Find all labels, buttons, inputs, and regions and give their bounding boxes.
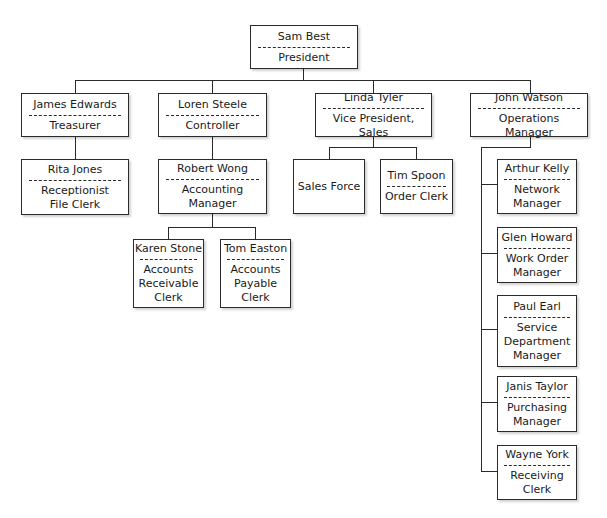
dashed-divider [478, 108, 579, 109]
node-name: Tom Easton [224, 242, 287, 256]
dashed-divider [387, 186, 447, 187]
node-name: Rita Jones [48, 163, 103, 177]
connector-line [481, 184, 497, 185]
node-network-manager: Arthur Kelly Network Manager [497, 159, 577, 214]
node-accounting-manager: Robert Wong Accounting Manager [158, 159, 267, 214]
dashed-divider [258, 47, 350, 48]
node-name: Linda Tyler [344, 91, 403, 105]
dashed-divider [504, 465, 570, 466]
connector-line [481, 253, 497, 254]
node-name: Sales Force [298, 180, 361, 194]
connector-line [255, 227, 256, 239]
node-name: Glen Howard [502, 231, 573, 245]
node-name: John Watson [495, 91, 563, 105]
dashed-divider [504, 179, 570, 180]
node-title: Receptionist File Clerk [41, 184, 109, 212]
node-title: Order Clerk [385, 190, 448, 204]
node-service-manager: Paul Earl Service Department Manager [497, 295, 577, 367]
connector-line [329, 147, 417, 148]
connector-line [75, 80, 76, 93]
node-title: Accounts Receivable Clerk [139, 263, 199, 305]
node-president: Sam Best President [250, 25, 358, 69]
connector-line [481, 471, 497, 472]
connector-line [168, 227, 256, 228]
dashed-divider [140, 259, 198, 260]
connector-line [481, 147, 482, 472]
node-name: Arthur Kelly [505, 162, 569, 176]
node-name: Janis Taylor [506, 380, 568, 394]
node-title: Controller [185, 119, 239, 133]
node-name: Tim Spoon [387, 169, 445, 183]
node-purchasing-manager: Janis Taylor Purchasing Manager [497, 376, 577, 432]
node-vp-sales: Linda Tyler Vice President, Sales [315, 93, 432, 137]
node-work-order-manager: Glen Howard Work Order Manager [497, 227, 577, 283]
node-order-clerk: Tim Spoon Order Clerk [380, 159, 453, 214]
node-title: Treasurer [49, 119, 100, 133]
connector-line [416, 147, 417, 159]
connector-line [168, 227, 169, 239]
node-name: Loren Steele [178, 98, 247, 112]
node-receptionist: Rita Jones Receptionist File Clerk [21, 159, 129, 215]
node-operations-manager: John Watson Operations Manager [470, 93, 588, 137]
node-title: Purchasing Manager [507, 401, 567, 429]
connector-line [75, 137, 76, 159]
dashed-divider [504, 397, 570, 398]
connector-line [212, 137, 213, 159]
connector-line [329, 147, 330, 159]
connector-line [481, 147, 531, 148]
node-title: Work Order Manager [506, 252, 569, 280]
node-name: Paul Earl [513, 300, 561, 314]
node-name: Wayne York [505, 448, 569, 462]
org-chart: Sam Best President James Edwards Treasur… [0, 0, 607, 518]
node-name: Sam Best [278, 30, 330, 44]
node-title: Vice President, Sales [319, 112, 428, 140]
dashed-divider [323, 108, 423, 109]
connector-line [212, 80, 213, 93]
node-title: Service Department Manager [504, 321, 571, 363]
node-sales-force: Sales Force [293, 159, 365, 214]
node-ap-clerk: Tom Easton Accounts Payable Clerk [220, 239, 291, 308]
node-title: Operations Manager [474, 112, 584, 140]
dashed-divider [166, 115, 259, 116]
dashed-divider [166, 179, 259, 180]
node-receiving-clerk: Wayne York Receiving Clerk [497, 445, 577, 500]
dashed-divider [504, 317, 570, 318]
node-ar-clerk: Karen Stone Accounts Receivable Clerk [133, 239, 204, 308]
node-title: Accounts Payable Clerk [230, 263, 280, 305]
node-name: James Edwards [33, 98, 116, 112]
connector-line [212, 214, 213, 227]
connector-line [481, 402, 497, 403]
dashed-divider [29, 180, 121, 181]
connector-line [481, 329, 497, 330]
dashed-divider [504, 248, 570, 249]
node-title: Receiving Clerk [510, 469, 563, 497]
node-title: President [278, 51, 329, 65]
node-name: Karen Stone [135, 242, 202, 256]
node-title: Accounting Manager [182, 183, 243, 211]
node-controller: Loren Steele Controller [158, 93, 267, 137]
node-name: Robert Wong [177, 162, 248, 176]
node-title: Network Manager [513, 183, 561, 211]
dashed-divider [29, 115, 121, 116]
node-treasurer: James Edwards Treasurer [21, 93, 129, 137]
dashed-divider [227, 259, 285, 260]
connector-line [75, 80, 531, 81]
